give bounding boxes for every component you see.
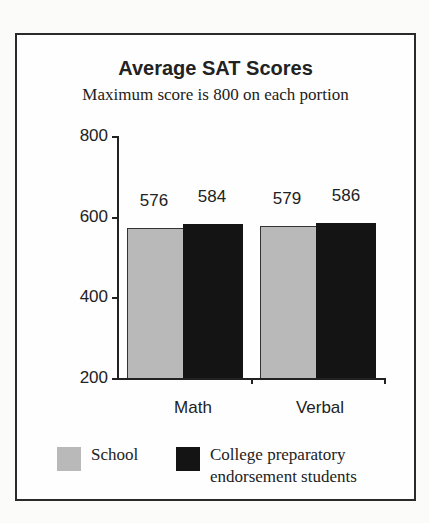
label-math-college: 584 [182,187,242,207]
ytick-800: 800 [48,126,108,146]
legend-label-college-1: College preparatory [210,444,345,465]
ytick-400: 400 [48,287,108,307]
label-verbal-school: 579 [257,189,317,209]
ytick-mark-600 [112,217,118,219]
legend-label-college-2: endorsement students [210,466,357,487]
bar-math-college [183,224,243,379]
xtick-end [384,378,386,384]
xtick-mid [251,378,253,384]
xlabel-math: Math [133,398,253,418]
ytick-200: 200 [48,368,108,388]
ytick-mark-400 [112,297,118,299]
bar-verbal-college [316,223,376,379]
label-verbal-college: 586 [316,186,376,206]
y-axis [117,136,119,380]
bar-verbal-school [260,226,316,379]
chart-subtitle: Maximum score is 800 on each portion [17,85,414,105]
chart-title: Average SAT Scores [17,57,414,80]
label-math-school: 576 [124,191,184,211]
legend-swatch-college [176,447,200,471]
legend-swatch-school [57,447,81,471]
xlabel-verbal: Verbal [260,398,380,418]
ytick-mark-800 [112,136,118,138]
legend-label-school: School [91,444,138,465]
bar-math-school [127,228,183,379]
ytick-600: 600 [48,207,108,227]
